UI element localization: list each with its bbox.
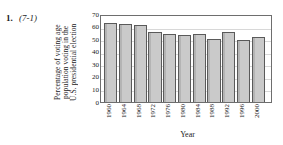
x-tick-label: 1980 bbox=[180, 104, 187, 118]
y-tick-label: 70 bbox=[85, 12, 99, 19]
bar-slot bbox=[134, 16, 147, 102]
bar bbox=[163, 34, 176, 102]
figure-root: 1. (7-1) Percentage of voting age popula… bbox=[0, 0, 283, 145]
x-tick-slot: 1960 bbox=[103, 104, 116, 130]
bar-series bbox=[101, 16, 271, 102]
bar bbox=[178, 35, 191, 102]
y-tick-label: 60 bbox=[85, 24, 99, 31]
y-tick-label: 20 bbox=[85, 74, 99, 81]
y-axis-title-line-3: U.S. presidential election bbox=[70, 6, 78, 118]
bar-slot bbox=[148, 16, 161, 102]
bar-slot bbox=[163, 16, 176, 102]
x-tick-slot: 1988 bbox=[206, 104, 219, 130]
bar bbox=[148, 32, 161, 102]
x-tick-slot: 1972 bbox=[147, 104, 160, 130]
y-tick-label: 0 bbox=[85, 100, 99, 107]
x-tick-label: 1972 bbox=[150, 104, 157, 118]
bar bbox=[207, 39, 220, 102]
y-tick-label: 10 bbox=[85, 87, 99, 94]
x-tick-label: 2000 bbox=[254, 104, 261, 118]
x-tick-slot: 2000 bbox=[251, 104, 264, 130]
x-tick-slot: 1996 bbox=[236, 104, 249, 130]
bar-slot bbox=[252, 16, 265, 102]
bar bbox=[193, 34, 206, 102]
x-tick-label: 1960 bbox=[106, 104, 113, 118]
bar-slot bbox=[207, 16, 220, 102]
plot-area bbox=[100, 15, 272, 103]
y-tick-label: 30 bbox=[85, 62, 99, 69]
x-tick-label: 1968 bbox=[136, 104, 143, 118]
x-tick-label: 1988 bbox=[209, 104, 216, 118]
bar bbox=[104, 23, 117, 102]
bar bbox=[237, 40, 250, 102]
bar-slot bbox=[104, 16, 117, 102]
x-tick-slot: 1964 bbox=[118, 104, 131, 130]
x-axis-title: Year bbox=[100, 130, 272, 139]
bar-slot bbox=[119, 16, 132, 102]
x-tick-slot: 1984 bbox=[192, 104, 205, 130]
bar-slot bbox=[178, 16, 191, 102]
bar-slot bbox=[237, 16, 250, 102]
x-tick-label: 1984 bbox=[195, 104, 202, 118]
y-tick-label: 50 bbox=[85, 37, 99, 44]
x-tick-label: 1976 bbox=[165, 104, 172, 118]
problem-reference: (7-1) bbox=[19, 13, 37, 23]
x-tick-slot: 1976 bbox=[162, 104, 175, 130]
problem-number: 1. bbox=[6, 13, 13, 23]
x-tick-label: 1964 bbox=[121, 104, 128, 118]
y-tick-label: 40 bbox=[85, 49, 99, 56]
x-tick-label: 1996 bbox=[239, 104, 246, 118]
x-tick-slot: 1992 bbox=[221, 104, 234, 130]
bar bbox=[134, 25, 147, 102]
bar bbox=[252, 37, 265, 102]
bar bbox=[222, 32, 235, 102]
x-tick-slot: 1980 bbox=[177, 104, 190, 130]
y-axis-title: Percentage of voting age population voti… bbox=[54, 6, 84, 118]
x-tick-label: 1992 bbox=[224, 104, 231, 118]
bar-slot bbox=[222, 16, 235, 102]
x-axis-tick-labels: 1960196419681972197619801984198819921996… bbox=[100, 104, 272, 130]
bar bbox=[119, 24, 132, 102]
bar-slot bbox=[193, 16, 206, 102]
x-tick-slot: 1968 bbox=[133, 104, 146, 130]
y-axis-tick-labels: 706050403020100 bbox=[84, 0, 99, 145]
